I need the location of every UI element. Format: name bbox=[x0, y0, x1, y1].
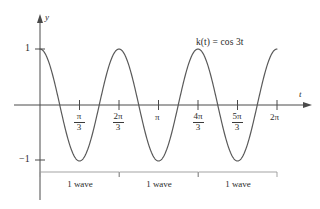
x-tick-label-4pi-over-3: 4π 3 bbox=[187, 112, 209, 133]
wave-bracket-label-3: 1 wave bbox=[208, 180, 268, 189]
x-tick-label-2pi: 2π bbox=[270, 113, 279, 122]
y-tick-label-neg1: −1 bbox=[19, 154, 30, 164]
wave-bracket-label-2: 1 wave bbox=[129, 180, 189, 189]
wave-brackets bbox=[40, 172, 277, 177]
x-tick-label-pi-over-3: π 3 bbox=[68, 112, 90, 133]
x-tick-label-pi: π bbox=[155, 113, 160, 122]
equation-label: k(t) = cos 3t bbox=[196, 38, 244, 48]
y-tick-label-1: 1 bbox=[25, 43, 30, 53]
fraction-denominator: 3 bbox=[68, 123, 90, 132]
equation-text: k(t) = cos 3t bbox=[196, 37, 244, 47]
fraction-numerator: 5π bbox=[226, 112, 248, 121]
x-tick-label-5pi-over-3: 5π 3 bbox=[226, 112, 248, 133]
fraction-numerator: 2π bbox=[107, 112, 129, 121]
fraction-denominator: 3 bbox=[107, 123, 129, 132]
fraction-denominator: 3 bbox=[187, 123, 209, 132]
cosine-graph-figure: y t 1 −1 π 3 2π 3 π 4π 3 5π 3 2π k(t) = … bbox=[0, 0, 320, 209]
x-tick-label-2pi-over-3: 2π 3 bbox=[107, 112, 129, 133]
x-axis-label: t bbox=[299, 90, 302, 99]
fraction-numerator: 4π bbox=[187, 112, 209, 121]
fraction-numerator: π bbox=[68, 112, 90, 121]
y-axis-label: y bbox=[45, 13, 49, 22]
plot-canvas bbox=[0, 0, 320, 209]
wave-bracket-label-1: 1 wave bbox=[50, 180, 110, 189]
fraction-denominator: 3 bbox=[226, 123, 248, 132]
